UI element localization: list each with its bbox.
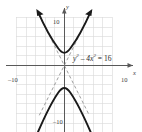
y-axis-label: y [66, 4, 69, 11]
x-axis-arrow [128, 63, 134, 68]
x-axis-label: x [133, 70, 136, 77]
equation-rhs: 16 [104, 54, 112, 63]
y-axis-tick-label-negative-10: –10 [53, 119, 63, 126]
upper-left-arrow [36, 9, 43, 16]
x-axis-tick-label-negative-10: –10 [8, 77, 18, 84]
equation-label: y2 – 4x2 = 16 [73, 53, 111, 62]
y-axis-tick-label-positive-10: 10 [53, 19, 60, 26]
upper-right-arrow [85, 9, 92, 16]
x-axis-tick-label-positive-10: 10 [121, 77, 128, 84]
plot-canvas [0, 0, 142, 132]
hyperbola-figure: –10 10 10 –10 x y y2 – 4x2 = 16 [0, 0, 142, 132]
